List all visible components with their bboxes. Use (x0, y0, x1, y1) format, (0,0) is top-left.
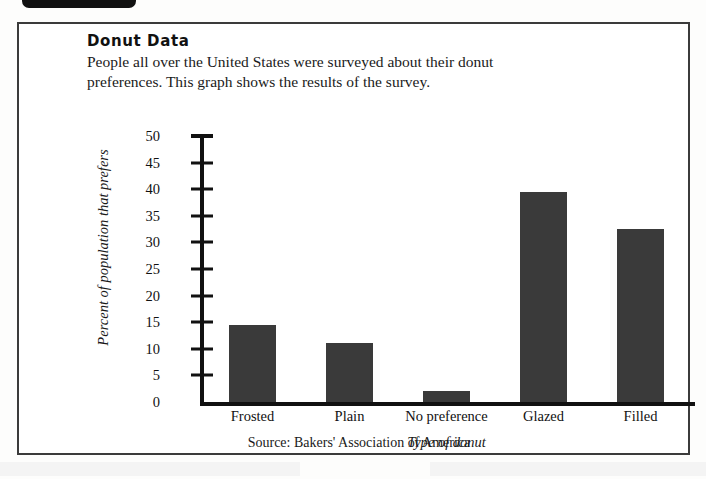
bar-slot (495, 136, 592, 402)
x-axis-tick-label: Frosted (204, 408, 301, 425)
x-axis-tick-label: Filled (592, 408, 689, 425)
y-axis-tick-label: 50 (120, 128, 160, 145)
page-title: Donut Data (87, 32, 674, 50)
bar-slot (301, 136, 398, 402)
bar-no-preference (423, 391, 470, 402)
y-axis-tick-labels: 50454035302520151050 (120, 124, 160, 402)
bar-glazed (520, 192, 567, 402)
y-axis-tick-label: 10 (120, 340, 160, 357)
x-axis-tick-label: Plain (301, 408, 398, 425)
y-axis-tick-label: 5 (120, 367, 160, 384)
y-axis-tick-label: 20 (120, 287, 160, 304)
bar-series (204, 136, 689, 402)
y-axis-tick-label: 15 (120, 314, 160, 331)
y-axis-tick-label: 40 (120, 181, 160, 198)
y-axis-tick-label: 45 (120, 154, 160, 171)
chart-header: Donut Data People all over the United St… (87, 32, 674, 93)
bar-slot (592, 136, 689, 402)
y-axis-tick-label: 35 (120, 207, 160, 224)
chart-card: Donut Data People all over the United St… (17, 22, 690, 455)
page-tab-marker (22, 0, 136, 8)
bar-filled (617, 229, 664, 402)
scan-artifact-left (0, 462, 300, 476)
source-caption: Source: Bakers' Association of America (119, 435, 599, 451)
y-axis-tick-label: 30 (120, 234, 160, 251)
page-background: Donut Data People all over the United St… (0, 0, 706, 479)
x-axis-tick-labels: FrostedPlainNo preferenceGlazedFilled (204, 408, 689, 425)
plot-region (204, 136, 689, 402)
bar-plain (326, 343, 373, 402)
y-axis-tick-label: 25 (120, 261, 160, 278)
intro-paragraph: People all over the United States were s… (87, 52, 567, 93)
bar-slot (398, 136, 495, 402)
x-axis-tick-label: No preference (398, 408, 495, 425)
bar-frosted (229, 325, 276, 402)
scan-artifact-right (430, 462, 706, 476)
x-axis-line (200, 402, 695, 406)
bar-slot (204, 136, 301, 402)
y-axis-tick-label: 0 (120, 394, 160, 411)
bar-chart: Percent of population that prefers 50454… (36, 124, 706, 424)
y-axis-title: Percent of population that prefers (95, 133, 112, 363)
x-axis-tick-label: Glazed (495, 408, 592, 425)
